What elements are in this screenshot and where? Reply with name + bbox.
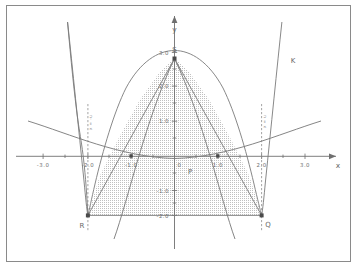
point-label-s: S — [172, 46, 177, 54]
x-tick-label-6: 3.0 — [300, 162, 310, 168]
point-label-q: Q — [265, 221, 271, 229]
y-tick-label-3: -1.0 — [156, 188, 169, 194]
marker-point-q — [260, 213, 264, 217]
dashed-line-label-left: x = -u — [88, 115, 93, 130]
marker-point-r — [86, 213, 90, 217]
y-axis-label: y — [172, 25, 177, 34]
y-tick-label-1: 2.0 — [159, 83, 169, 89]
plot-area: -3.0 -2.0 -1.0 0 1.0 2.0 3.0 3.0 2.0 1.0… — [0, 0, 358, 269]
y-axis-arrow — [172, 16, 178, 23]
figure-container: -3.0 -2.0 -1.0 0 1.0 2.0 3.0 3.0 2.0 1.0… — [0, 0, 358, 269]
curve-label-k: K — [291, 57, 296, 65]
x-tick-label-4: 1.0 — [213, 162, 223, 168]
x-tick-label-2: -1.0 — [125, 162, 138, 168]
x-tick-label-0: -3.0 — [37, 162, 50, 168]
x-tick-label-1: -2.0 — [82, 162, 95, 168]
marker-point-s — [173, 57, 177, 61]
function-plot-svg: -3.0 -2.0 -1.0 0 1.0 2.0 3.0 3.0 2.0 1.0… — [0, 0, 358, 269]
y-tick-label-0: 3.0 — [159, 50, 169, 56]
x-tick-label-5: 2.0 — [257, 162, 267, 168]
y-tick-label-4: -2.0 — [156, 213, 169, 219]
dashed-line-label-right: x = u — [262, 115, 267, 128]
point-label-r: R — [80, 222, 85, 230]
x-axis-label: x — [336, 161, 341, 170]
x-tick-label-3: 0 — [178, 162, 182, 168]
marker-point-origin-left — [129, 154, 132, 157]
marker-point-origin-right — [216, 154, 219, 157]
point-label-p: P — [188, 168, 192, 176]
y-tick-label-2: 1.0 — [159, 118, 169, 124]
x-axis-arrow — [329, 153, 336, 159]
